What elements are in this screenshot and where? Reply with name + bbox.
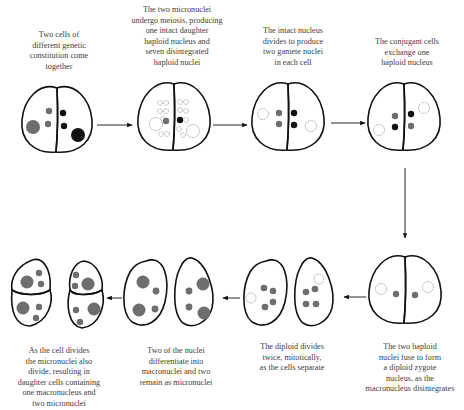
macronucleus-black <box>71 128 85 142</box>
cell-right <box>56 87 92 152</box>
micronucleus-black <box>61 123 67 129</box>
micronucleus-black <box>60 110 66 116</box>
intact-haploid-black <box>177 117 183 123</box>
stage-6-cells <box>244 258 333 326</box>
stage-8-cells <box>12 260 104 328</box>
caption-stage-4: The conjugant cells exchange one haploid… <box>362 37 452 69</box>
micronucleus-grey <box>46 108 52 114</box>
stage-2-cells <box>138 83 210 150</box>
stage-3-cells <box>252 83 324 150</box>
stage-4-cells <box>368 83 440 150</box>
caption-stage-1: Two cells of different genetic constitut… <box>14 30 104 72</box>
caption-stage-6: The diploid divides twice, mitotically, … <box>242 342 342 374</box>
cell-left <box>22 87 58 152</box>
caption-stage-5: The two haploid nuclei fuse to form a di… <box>358 342 462 395</box>
stage-7-cells <box>124 258 213 326</box>
caption-stage-7: Two of the nuclei differentiate into mac… <box>124 346 228 388</box>
macronucleus-grey <box>26 120 40 134</box>
stage-1-cells <box>22 87 92 152</box>
caption-stage-2: The two micronuclei undergo meiosis, pro… <box>122 5 232 69</box>
stage-5-cells <box>369 256 441 323</box>
micronucleus-grey <box>45 121 51 127</box>
caption-stage-3: The intact nucleus divides to produce tw… <box>248 26 338 68</box>
intact-haploid-grey <box>163 118 169 124</box>
caption-stage-8: As the cell divides the micronuclei also… <box>4 346 114 410</box>
